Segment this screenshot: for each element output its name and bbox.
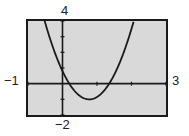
x-min-label: −1 bbox=[4, 74, 19, 87]
graph-window bbox=[0, 0, 189, 136]
y-min-label: −2 bbox=[55, 118, 70, 131]
y-max-label: 4 bbox=[61, 4, 68, 17]
x-max-label: 3 bbox=[172, 74, 179, 87]
